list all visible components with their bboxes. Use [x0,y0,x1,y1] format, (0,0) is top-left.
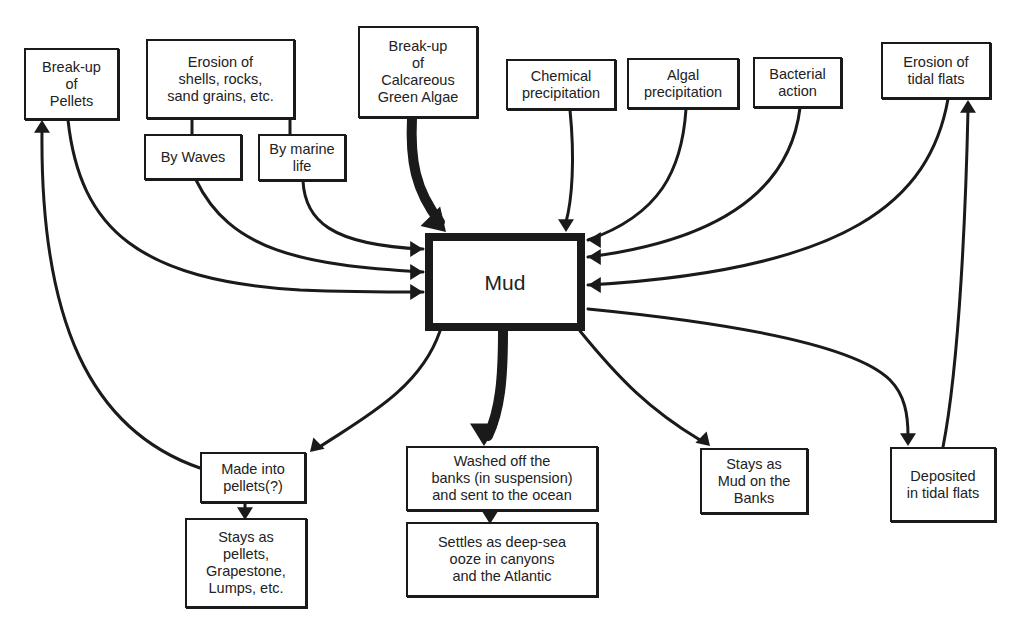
node-label: Break-up of Pellets [42,59,101,110]
mud-flow-diagram: MudBreak-up of PelletsErosion of shells,… [0,0,1019,626]
node-by-marine-life: By marine life [258,134,346,181]
node-label: Break-up of Calcareous Green Algae [378,38,459,106]
arrowhead-icon [410,264,423,280]
node-chemical-precip: Chemical precipitation [506,59,616,110]
arrowhead-icon [588,277,601,293]
node-washed-off: Washed off the banks (in suspension) and… [406,446,598,511]
arrow-breakup-algae-to-mud [412,118,446,232]
arrow-mud-to-made-into-pellets [310,331,440,452]
node-label: Made into pellets(?) [221,461,285,495]
arrow-chemical-precip-to-mud [558,110,574,232]
arrowhead-icon [410,284,423,300]
node-label: Washed off the banks (in suspension) and… [431,453,572,504]
arrow-mud-to-stays-mud-banks [580,331,710,446]
node-label: Settles as deep-sea ooze in canyons and … [438,534,566,585]
arrow-by-waves-to-mud [196,180,423,280]
arrowhead-icon [900,433,916,446]
node-label: Erosion of tidal flats [903,54,968,88]
arrow-erosion-tidal-to-mud [588,99,948,293]
arrowhead-icon [588,232,601,248]
node-bacterial-action: Bacterial action [753,57,842,108]
arrowhead-icon [558,219,574,232]
arrow-breakup-pellets-to-mud [68,120,423,300]
arrowhead-icon [34,120,50,133]
node-breakup-algae: Break-up of Calcareous Green Algae [358,26,478,118]
node-settles-ooze: Settles as deep-sea ooze in canyons and … [406,522,598,597]
node-label: Stays as pellets, Grapestone, Lumps, etc… [206,529,286,597]
arrow-mud-to-deposited-tidal [588,309,916,446]
node-label: Deposited in tidal flats [907,468,980,502]
node-mud: Mud [425,233,585,331]
node-erosion-tidal: Erosion of tidal flats [881,42,991,99]
node-stays-mud-banks: Stays as Mud on the Banks [700,448,808,514]
node-label: Bacterial action [769,66,825,100]
node-label: Mud [485,274,526,291]
node-stays-pellets: Stays as pellets, Grapestone, Lumps, etc… [185,518,307,608]
arrow-mud-to-washed-off [470,331,503,446]
arrow-bacterial-action-to-mud [588,108,800,265]
node-label: Chemical precipitation [522,68,600,102]
node-algal-precip: Algal precipitation [627,58,739,109]
arrowhead-icon [410,241,423,257]
arrowhead-icon [960,100,976,113]
node-by-waves: By Waves [144,134,242,180]
arrow-deposited-tidal-to-erosion-tidal [943,100,976,447]
node-erosion-shells: Erosion of shells, rocks, sand grains, e… [146,39,295,119]
node-label: Erosion of shells, rocks, sand grains, e… [167,54,273,105]
arrow-algal-precip-to-mud [588,109,686,248]
arrowhead-icon [588,249,601,265]
node-label: By Waves [161,149,226,166]
node-label: Algal precipitation [644,67,722,101]
node-label: Stays as Mud on the Banks [718,456,791,507]
node-made-into-pellets: Made into pellets(?) [200,452,306,503]
node-label: By marine life [269,141,334,175]
node-breakup-pellets: Break-up of Pellets [24,48,119,120]
node-deposited-tidal: Deposited in tidal flats [890,447,996,522]
arrow-by-marine-life-to-mud [303,181,423,257]
